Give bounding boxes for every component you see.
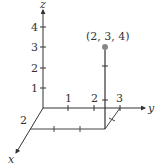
x-axis-label: x	[8, 153, 15, 166]
y-tick-label-2: 2	[91, 92, 98, 105]
z-axis: z 1 2 3 4	[31, 0, 46, 108]
z-tick-label-3: 3	[31, 41, 38, 54]
point-label: (2, 3, 4)	[86, 30, 130, 43]
x-tick-label-2: 2	[20, 114, 27, 127]
z-tick-label-2: 2	[31, 62, 38, 75]
z-tick-label-1: 1	[31, 82, 38, 95]
y-axis-label: y	[147, 102, 155, 115]
y-tick-label-3: 3	[116, 92, 123, 105]
3d-coordinate-diagram: z 1 2 3 4 y 1 2 3 x 2	[0, 0, 164, 167]
z-axis-label: z	[39, 0, 46, 11]
y-tick-label-1: 1	[65, 92, 72, 105]
x-axis: x 2	[8, 108, 43, 166]
z-tick-label-4: 4	[31, 21, 38, 34]
y-axis: y 1 2 3	[43, 92, 155, 115]
point-marker	[102, 44, 108, 50]
point-2-3-4: (2, 3, 4)	[86, 30, 130, 50]
guide-y3-line	[105, 108, 120, 129]
